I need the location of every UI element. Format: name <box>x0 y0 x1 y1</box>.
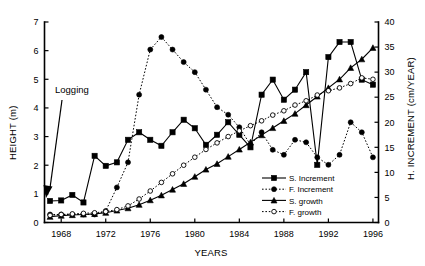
data-point <box>371 77 376 82</box>
data-point <box>236 146 242 152</box>
legend-label: F. Increment <box>289 185 334 194</box>
x-tick-label: 1992 <box>318 229 338 239</box>
legend-label: S. growth <box>289 197 323 206</box>
data-point <box>159 35 164 40</box>
data-point <box>259 92 264 97</box>
data-point <box>158 192 164 198</box>
data-point <box>159 143 164 148</box>
logging-annotation-arrow <box>50 100 62 188</box>
chart-figure: 01234567 0510152025303540 19681972197619… <box>0 0 425 266</box>
left-tick-label: 6 <box>33 46 38 56</box>
data-point <box>248 123 253 128</box>
right-tick-label: 20 <box>385 118 395 128</box>
data-point <box>337 39 342 44</box>
legend-entry: S. growth <box>262 197 323 206</box>
data-point <box>126 160 131 165</box>
data-point <box>192 126 197 131</box>
data-point <box>103 163 108 168</box>
data-point <box>47 198 52 203</box>
data-point <box>81 211 86 216</box>
data-point <box>192 70 197 75</box>
data-point <box>214 161 220 167</box>
data-point <box>92 210 97 215</box>
x-tick-label: 1980 <box>185 229 205 239</box>
right-tick-label: 40 <box>385 17 395 27</box>
data-point <box>315 155 320 160</box>
logging-annotation-label: Logging <box>55 84 89 95</box>
right-tick-label: 25 <box>385 92 395 102</box>
chart-legend: S. IncrementF. IncrementS. growthF. grow… <box>262 174 335 217</box>
left-tick-label: 5 <box>33 75 38 85</box>
data-point <box>137 92 142 97</box>
data-point <box>348 120 353 125</box>
right-tick-label: 30 <box>385 67 395 77</box>
data-point <box>326 88 331 93</box>
data-point <box>181 117 186 122</box>
data-point <box>315 93 320 98</box>
data-point <box>304 98 309 103</box>
left-tick-label: 4 <box>33 103 38 113</box>
data-point <box>270 77 275 82</box>
legend-entry: S. Increment <box>262 174 335 183</box>
data-point <box>359 130 364 135</box>
data-point <box>147 197 153 203</box>
data-point <box>203 142 208 147</box>
data-point <box>293 103 298 108</box>
data-point <box>125 137 130 142</box>
data-point <box>226 120 231 125</box>
data-point <box>170 187 176 193</box>
x-tick-label: 1968 <box>51 229 71 239</box>
data-point <box>70 192 75 197</box>
data-point <box>137 130 142 135</box>
y-axis-title: HEIGHT (m) <box>7 105 18 160</box>
logging-annotation: Logging <box>44 84 89 198</box>
data-point <box>348 81 353 86</box>
legend-marker-sample <box>271 175 276 180</box>
data-point <box>370 155 375 160</box>
data-point <box>226 134 231 139</box>
data-point <box>293 137 298 142</box>
data-point <box>270 113 275 118</box>
data-point <box>226 112 231 117</box>
right-tick-label: 10 <box>385 168 395 178</box>
data-point <box>281 97 286 102</box>
data-point <box>81 200 86 205</box>
legend-entry: F. growth <box>262 208 321 217</box>
data-point <box>114 160 119 165</box>
data-point <box>103 209 108 214</box>
data-point <box>281 118 287 124</box>
data-point <box>281 152 286 157</box>
data-point <box>326 54 331 59</box>
legend-marker-sample <box>272 209 277 214</box>
data-point <box>59 212 64 217</box>
x-tick-label: 1972 <box>96 229 116 239</box>
x-tick-label: 1976 <box>140 229 160 239</box>
legend-marker-sample <box>272 187 277 192</box>
data-point <box>360 76 365 81</box>
data-point <box>115 207 120 212</box>
data-point <box>237 129 242 134</box>
data-point <box>170 172 175 177</box>
data-point <box>148 47 153 52</box>
legend-label: F. growth <box>289 208 321 217</box>
right-tick-label: 5 <box>385 193 390 203</box>
data-point <box>181 163 186 168</box>
data-point <box>304 140 309 145</box>
left-tick-label: 3 <box>33 132 38 142</box>
data-point <box>148 137 153 142</box>
y2-axis-title: H. INCREMENT (cm/YEAR) <box>405 57 416 180</box>
right-axis-ticks: 0510152025303540 <box>375 17 395 228</box>
data-point <box>170 47 175 52</box>
x-axis-ticks: 19681972197619801984198819921996 <box>51 219 383 239</box>
x-axis-title: YEARS <box>194 247 227 258</box>
data-point <box>282 108 287 113</box>
data-point <box>215 105 220 110</box>
data-point <box>337 152 342 157</box>
data-point <box>92 153 97 158</box>
legend-label: S. Increment <box>289 174 335 183</box>
data-point <box>181 181 187 187</box>
data-point <box>337 86 342 91</box>
left-tick-label: 7 <box>33 17 38 27</box>
data-point <box>348 39 353 44</box>
data-point <box>126 204 131 209</box>
